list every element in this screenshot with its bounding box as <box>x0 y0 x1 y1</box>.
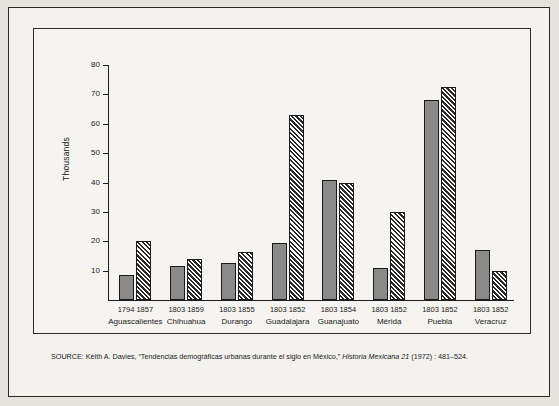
bar <box>322 180 337 300</box>
x-axis-year-labels: 1803 1852 <box>416 305 464 314</box>
y-axis-tick <box>103 94 109 95</box>
figure-outer-border: Thousands 1020304050607080 1794 1857Agua… <box>8 7 550 397</box>
y-axis-tick-label: 70 <box>74 90 100 98</box>
y-axis-tick <box>103 241 109 242</box>
page-canvas: Thousands 1020304050607080 1794 1857Agua… <box>0 0 559 406</box>
page-margin-top <box>0 0 559 7</box>
y-axis-tick-label: 50 <box>74 149 100 157</box>
bar <box>475 250 490 300</box>
y-axis-tick-label: 80 <box>74 61 100 69</box>
y-axis-tick-label: 40 <box>74 179 100 187</box>
x-axis-category-label: Veracruz <box>446 317 536 326</box>
x-axis-year-labels: 1803 1852 <box>365 305 413 314</box>
source-note-journal: Historia Mexicana 21 <box>342 352 409 361</box>
x-axis-year-labels: 1803 1859 <box>162 305 210 314</box>
x-axis-year-labels: 1794 1857 <box>111 305 159 314</box>
y-axis-tick-label: 10 <box>74 267 100 275</box>
page-margin-left <box>0 0 8 406</box>
y-axis-tick-label: 30 <box>74 208 100 216</box>
bar <box>390 212 405 300</box>
bar <box>339 183 354 301</box>
y-axis-title: Thousands <box>61 114 71 204</box>
x-axis-line <box>108 300 514 301</box>
y-axis-tick <box>103 153 109 154</box>
y-axis-tick <box>103 271 109 272</box>
y-axis-tick <box>103 183 109 184</box>
page-margin-right <box>550 0 559 406</box>
bar <box>187 259 202 300</box>
bar <box>424 100 439 300</box>
bar <box>492 271 507 300</box>
y-axis-tick-label: 20 <box>74 237 100 245</box>
bar <box>238 252 253 300</box>
source-note-suffix: (1972) : 481–524. <box>409 352 468 361</box>
plot-area: Thousands 1020304050607080 1794 1857Agua… <box>34 29 530 333</box>
y-axis-tick <box>103 65 109 66</box>
bar <box>136 241 151 300</box>
bar <box>221 263 236 300</box>
source-note: SOURCE: Keith A. Davies, “Tendencias dem… <box>51 352 521 362</box>
x-axis-year-labels: 1803 1855 <box>213 305 261 314</box>
bar <box>170 266 185 300</box>
x-axis-year-labels: 1803 1852 <box>467 305 515 314</box>
page-margin-bottom <box>0 397 559 406</box>
bar <box>119 275 134 300</box>
bar <box>289 115 304 300</box>
bar <box>373 268 388 300</box>
y-axis-tick <box>103 124 109 125</box>
x-axis-year-labels: 1803 1854 <box>314 305 362 314</box>
bar <box>441 87 456 300</box>
source-note-prefix: SOURCE: Keith A. Davies, “Tendencias dem… <box>51 352 342 361</box>
y-axis-tick-label: 60 <box>74 120 100 128</box>
x-axis-year-labels: 1803 1852 <box>264 305 312 314</box>
chart-frame: Thousands 1020304050607080 1794 1857Agua… <box>33 28 531 334</box>
y-axis-tick <box>103 212 109 213</box>
bar <box>272 243 287 300</box>
